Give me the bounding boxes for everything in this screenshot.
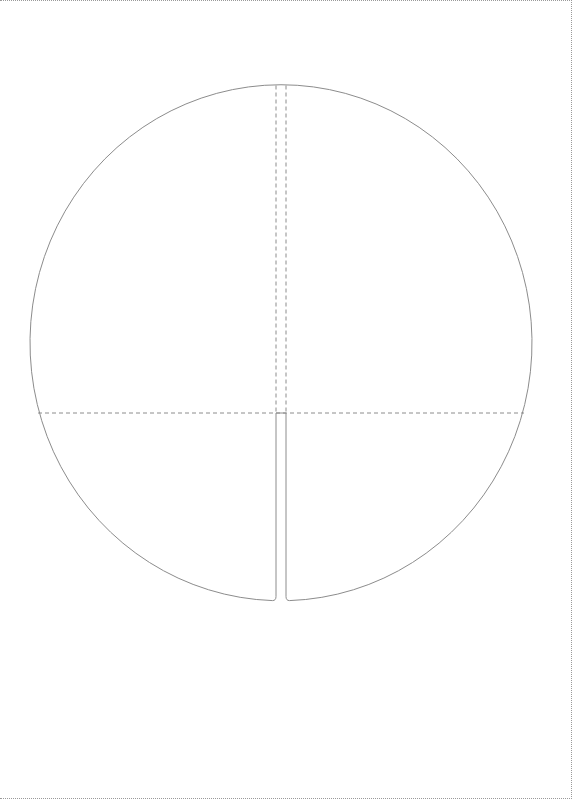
circle-template-diagram xyxy=(0,1,572,799)
page-border xyxy=(0,0,572,799)
cut-outline xyxy=(30,85,532,601)
